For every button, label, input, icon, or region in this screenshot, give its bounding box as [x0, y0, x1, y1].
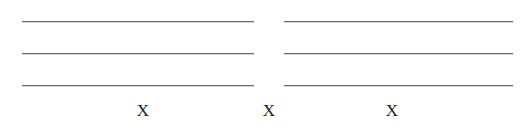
left-line-2 — [22, 53, 254, 54]
mark-x-center: X — [263, 102, 275, 119]
mark-x-right: X — [386, 102, 398, 119]
right-line-3 — [284, 85, 513, 86]
left-line-1 — [22, 21, 254, 22]
right-line-1 — [284, 21, 513, 22]
mark-x-left: X — [137, 102, 149, 119]
left-line-3 — [22, 85, 254, 86]
right-line-2 — [284, 53, 513, 54]
